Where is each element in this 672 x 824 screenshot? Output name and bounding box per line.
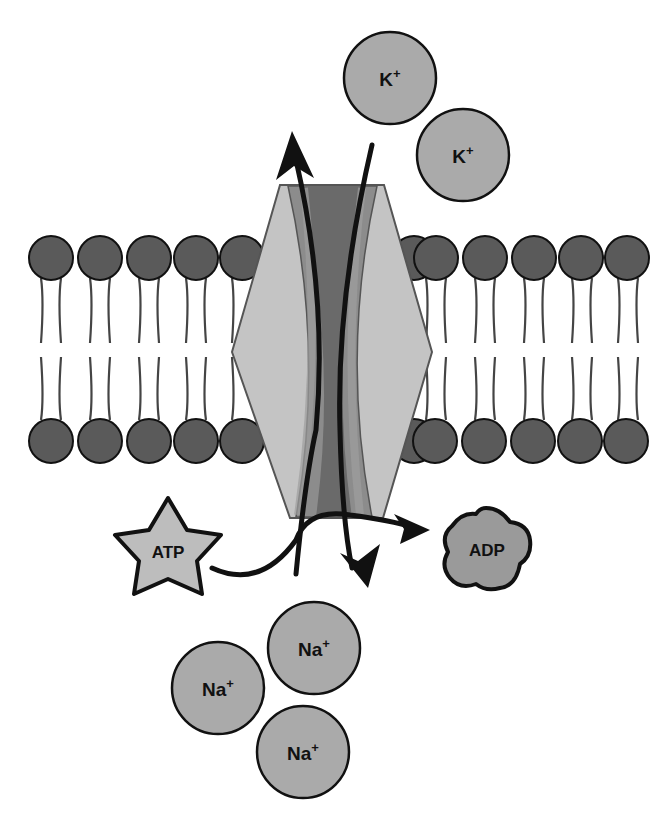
lipid-tails-right [426,278,638,420]
atp-molecule: ATP [115,498,221,594]
adp-molecule: ADP [444,508,530,589]
arrowhead-up-icon [276,131,314,180]
ion-charge: + [311,740,319,755]
ion-label: K [379,69,393,90]
atp-label: ATP [152,543,185,562]
lipid-tails-left [41,278,234,420]
ion-charge: + [466,143,474,158]
sodium-ion: Na+ [257,706,349,798]
adp-label: ADP [469,541,505,560]
ion-label: K [452,146,466,167]
ion-label: Na [202,679,227,700]
ion-charge: + [393,66,401,81]
atp-to-adp-arrow [212,514,415,575]
sodium-potassium-pump-protein [232,185,432,518]
sodium-potassium-pump-diagram: K+ K+ ATP ADP Na+ Na+ Na+ [0,0,672,824]
sodium-ion: Na+ [172,642,264,734]
ion-label: Na [287,743,312,764]
ion-charge: + [322,636,330,651]
ion-charge: + [226,676,234,691]
arrowhead-down-icon [340,544,380,588]
potassium-ion: K+ [417,109,509,201]
arrowhead-right-icon [394,514,430,544]
ion-label: Na [298,639,323,660]
potassium-ion: K+ [344,32,436,124]
sodium-ion: Na+ [268,602,360,694]
